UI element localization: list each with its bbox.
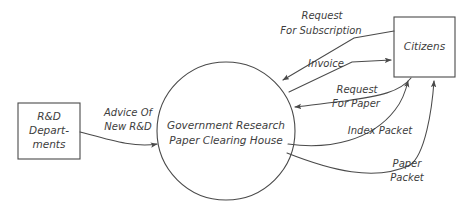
index-packet-label: Index Packet — [348, 125, 413, 136]
citizens-label: Citizens — [404, 40, 446, 52]
process-clearing-house[interactable]: Government Research Paper Clearing House — [157, 62, 295, 200]
advice-of-new-rnd-line — [80, 132, 157, 145]
request-for-subscription-label-line1: Request — [301, 10, 343, 21]
flow-advice-of-new-rnd[interactable]: Advice Of New R&D — [80, 107, 157, 145]
request-for-subscription-line — [283, 31, 394, 80]
rnd-departments-label: R&D — [37, 110, 61, 122]
clearing-house-circle — [157, 62, 295, 200]
clearing-house-label-line2: Paper Clearing House — [169, 134, 283, 146]
request-for-paper-label-line2: For Paper — [332, 98, 381, 109]
dfd-canvas: R&D Depart- ments Citizens Government Re… — [0, 0, 470, 221]
paper-packet-label-line1: Paper — [393, 158, 423, 169]
flow-request-for-paper[interactable]: Request For Paper — [295, 78, 411, 109]
data-flow-diagram: R&D Depart- ments Citizens Government Re… — [0, 0, 470, 221]
request-for-subscription-label-line2: For Subscription — [280, 25, 361, 36]
rnd-departments-label-line3: ments — [33, 138, 66, 150]
request-for-paper-label-line1: Request — [336, 84, 378, 95]
external-entity-rnd-departments[interactable]: R&D Depart- ments — [18, 103, 80, 159]
clearing-house-label-line1: Government Research — [167, 119, 285, 131]
external-entity-citizens[interactable]: Citizens — [394, 17, 455, 77]
advice-of-new-rnd-label-line1: Advice Of — [103, 107, 154, 118]
paper-packet-label-line2: Packet — [390, 172, 425, 183]
rnd-departments-label-line2: Depart- — [29, 124, 69, 136]
advice-of-new-rnd-label-line2: New R&D — [104, 121, 152, 132]
invoice-label: Invoice — [308, 58, 344, 69]
